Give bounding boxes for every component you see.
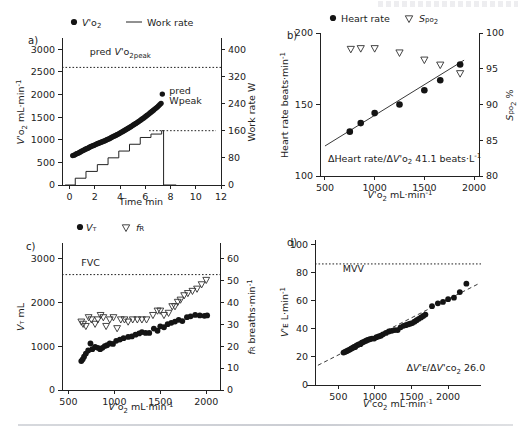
- panel-a-yticklabel: 1000: [31, 134, 55, 145]
- panel-d-datapoint: [445, 296, 451, 302]
- panel-a-yticklabel-right: 400: [228, 44, 246, 55]
- panel-c-legend: VᴛfR: [77, 222, 144, 233]
- panel-c-legend-label-vt: Vᴛ: [86, 222, 97, 233]
- panel-b-datapoint: [396, 101, 403, 108]
- panel-b-datapoint: [437, 62, 444, 69]
- panel-d-yticklabel: 20: [296, 351, 308, 362]
- figure-canvas: 0246810120500100015002000250030000801602…: [0, 0, 531, 432]
- panel-a-yticklabel: 2000: [31, 89, 55, 100]
- panel-b-datapoint: [357, 120, 364, 127]
- panel-c-datapoint: [179, 318, 185, 324]
- panel-a-yticklabel: 1500: [31, 112, 55, 123]
- panel-c-xaxis-title: V'o2 mL·min-1: [109, 401, 174, 415]
- panel-d: 500100015002000020406080100MVVΔV'ᴇ/ΔV'co…: [290, 239, 485, 402]
- panel-b-yticklabel-right: 95: [486, 63, 498, 74]
- panel-a-yticklabel-right: 320: [228, 71, 246, 82]
- panel-d-datapoint: [451, 295, 457, 301]
- panel-c-annotation-fvc: FVC: [81, 257, 100, 268]
- panel-a-yticklabel-right: 0: [228, 179, 234, 190]
- panel-b-yaxis-title: Heart rate beats·min-1: [279, 52, 290, 158]
- panel-a-annotation-wpeak: Wpeak: [169, 95, 202, 106]
- panel-a-series-v-o2: [70, 91, 165, 158]
- panel-d-xticklabel: 2000: [436, 391, 460, 402]
- panel-c-letter: c): [26, 241, 35, 252]
- panel-a-xticklabel: 12: [215, 191, 227, 202]
- panel-a-annotation-pred-vo2peak: pred V'o2peak: [90, 46, 152, 60]
- panel-c-yticklabel: 2000: [31, 297, 55, 308]
- page-footer-rule: [18, 424, 513, 426]
- panel-c-datapoint: [125, 319, 132, 325]
- page-header-artifact: [378, 1, 518, 7]
- panel-b-yticklabel: 200: [295, 27, 313, 38]
- panel-a-xticklabel: 8: [168, 191, 174, 202]
- panel-a-yticklabel: 2500: [31, 66, 55, 77]
- panel-d-yticklabel: 80: [296, 267, 308, 278]
- panel-a-xticklabel: 2: [92, 191, 98, 202]
- panel-b-xticklabel: 2000: [462, 182, 486, 193]
- panel-a-yticklabel-right: 240: [228, 98, 246, 109]
- panel-c-datapoint: [198, 282, 205, 288]
- panel-c-yticklabel-right: 50: [227, 275, 239, 286]
- panel-d-datapoint: [463, 281, 469, 287]
- panel-d-xaxis-title: V'co2 mL·min-1: [363, 398, 433, 412]
- panel-c-yticklabel-right: 40: [227, 297, 239, 308]
- panel-b-datapoint: [437, 77, 444, 84]
- panel-b-letter: b): [287, 30, 297, 41]
- panel-a-legend-label-vo2: V'o2: [82, 17, 101, 31]
- panel-c-yaxis-title: Vᴛ mL: [15, 302, 26, 331]
- panel-a-datapoint: [160, 91, 165, 96]
- panel-b-datapoint: [421, 57, 428, 64]
- panel-b-yticklabel: 150: [295, 99, 313, 110]
- panel-c-series-fr: [78, 277, 210, 331]
- panel-d-annotation-ve-vco2-slope: ΔV'ᴇ/ΔV'co2 26.0: [406, 362, 485, 376]
- panel-b-datapoint: [421, 87, 428, 94]
- panel-c-series-vt: [78, 312, 210, 364]
- panel-b-datapoint: [357, 46, 364, 53]
- panel-b-datapoint: [457, 71, 464, 78]
- panel-a-xticklabel: 0: [67, 191, 73, 202]
- panel-a: 0246810120500100015002000250030000801602…: [31, 38, 246, 202]
- panel-d-yaxis-title: V'ᴇ L·min-1: [279, 287, 290, 337]
- panel-c-yticklabel-right: 30: [227, 319, 239, 330]
- panel-b-yticklabel-right: 80: [486, 170, 498, 181]
- panel-c-datapoint: [161, 312, 168, 318]
- panel-c-datapoint: [114, 326, 121, 332]
- panel-b-legend: Heart rateSpo2: [330, 13, 438, 27]
- panel-a-yticklabel: 500: [37, 157, 55, 168]
- panel-c-yticklabel-right: 10: [227, 362, 239, 373]
- panel-a-yticklabel-right: 80: [228, 152, 240, 163]
- panel-d-datapoint: [440, 299, 446, 305]
- panel-b-legend-label-heart-rate: Heart rate: [341, 13, 390, 24]
- cpet-figure: 0246810120500100015002000250030000801602…: [0, 0, 531, 432]
- panel-b-yticklabel-right: 90: [486, 99, 498, 110]
- panel-d-yticklabel: 0: [302, 379, 308, 390]
- panel-a-datapoint: [158, 101, 163, 106]
- panel-b-datapoint: [396, 50, 403, 57]
- panel-b-yaxis-right-title: Spo2 %: [504, 89, 518, 120]
- panel-c-datapoint: [88, 341, 94, 347]
- panel-b-legend-marker-spo2: [405, 16, 412, 23]
- panel-b-yticklabel-right: 85: [486, 135, 498, 146]
- panel-a-yticklabel-right: 160: [228, 125, 246, 136]
- panel-a-yticklabel: 0: [49, 179, 55, 190]
- panel-b-series-heart-rate: [347, 61, 464, 135]
- panel-d-yticklabel: 60: [296, 295, 308, 306]
- panel-c-legend-marker-vt: [77, 224, 83, 230]
- panel-c-datapoint: [203, 277, 210, 283]
- panel-b-datapoint: [347, 128, 354, 135]
- panel-b-datapoint: [371, 46, 378, 53]
- panel-b-xticklabel: 500: [316, 182, 334, 193]
- panel-c-datapoint: [146, 330, 152, 336]
- panel-a-yaxis-title: V'o2 mL·min-1: [15, 80, 29, 145]
- panel-a-legend-label-work-rate: Work rate: [147, 17, 194, 28]
- panel-b-datapoint: [457, 61, 464, 68]
- panel-b-legend-marker-heart-rate: [330, 15, 336, 21]
- panel-c-legend-marker-fr: [122, 225, 129, 232]
- panel-c-yticklabel-right: 60: [227, 253, 239, 264]
- panel-c-yticklabel: 1000: [31, 341, 55, 352]
- panel-b-fit-line: [325, 60, 464, 146]
- panel-a-series-work-rate: [65, 131, 176, 185]
- panel-b-annotation-hr-slope: ΔHeart rate/ΔV'o2 41.1 beats·L-1: [328, 152, 481, 166]
- panel-d-yticklabel: 40: [296, 323, 308, 334]
- panel-c-yticklabel-right: 0: [227, 384, 233, 395]
